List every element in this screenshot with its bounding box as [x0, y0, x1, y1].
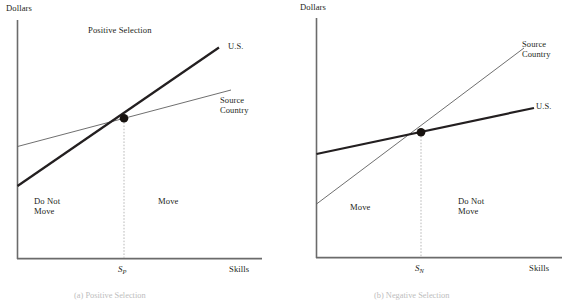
equilibrium-point [417, 128, 426, 137]
region-label-do-not-move: Do Not Move [458, 196, 484, 216]
panel-positive-selection: Dollars Positive Selection U.S. Source C… [0, 0, 282, 299]
region-label-move: Move [158, 196, 178, 206]
x-tick-label-sp: SP [118, 264, 127, 275]
panel-caption: (a) Positive Selection [74, 291, 146, 300]
series-label-us: U.S. [228, 41, 244, 51]
y-axis-title: Dollars [300, 2, 326, 12]
series-label-source-country: Source Country [522, 39, 551, 59]
us-line [18, 48, 220, 187]
region-label-move: Move [350, 202, 370, 212]
source-country-line [317, 48, 525, 204]
tick-subscript: P [123, 268, 127, 275]
region-label-do-not-move: Do Not Move [34, 196, 60, 216]
y-axis-title: Dollars [6, 3, 32, 13]
series-label-source-country: Source Country [220, 95, 249, 115]
equilibrium-point [120, 114, 129, 123]
tick-subscript: N [420, 267, 424, 274]
x-tick-label-sn: SN [415, 263, 424, 274]
panel-caption: (b) Negative Selection [374, 291, 449, 300]
tick-base: S [415, 263, 420, 273]
series-label-us: U.S. [536, 101, 552, 111]
panel-title: Positive Selection [88, 25, 152, 35]
us-line [317, 108, 535, 154]
tick-base: S [118, 264, 123, 274]
x-axis-title: Skills [529, 263, 549, 273]
x-axis-title: Skills [229, 264, 249, 274]
panel-negative-selection: Dollars Source Country U.S. Move Do Not … [282, 0, 564, 299]
